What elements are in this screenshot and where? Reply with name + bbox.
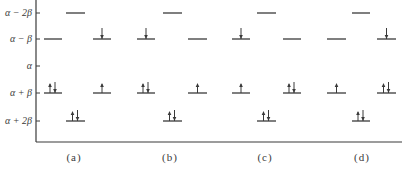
y-axis-label: α xyxy=(27,61,32,71)
arrow-head-up-icon xyxy=(287,83,291,87)
y-axis-label: α − β xyxy=(10,34,32,44)
diagram-canvas xyxy=(0,0,402,170)
arrow-head-up-icon xyxy=(168,111,172,115)
configuration-label: (a) xyxy=(59,151,89,163)
arrow-head-up-icon xyxy=(335,83,339,87)
arrow-head-up-icon xyxy=(100,83,104,87)
arrow-head-up-icon xyxy=(48,83,52,87)
arrow-head-up-icon xyxy=(262,111,266,115)
arrow-head-up-icon xyxy=(382,83,386,87)
arrow-head-up-icon xyxy=(71,111,75,115)
y-axis-label: α − 2β xyxy=(5,8,32,18)
configuration-label: (d) xyxy=(347,151,377,163)
arrow-head-up-icon xyxy=(196,83,200,87)
arrow-head-up-icon xyxy=(141,83,145,87)
configuration-label: (c) xyxy=(250,151,280,163)
y-axis-label: α + 2β xyxy=(5,116,32,126)
y-axis-label: α + β xyxy=(10,88,32,98)
arrow-head-up-icon xyxy=(356,111,360,115)
configuration-label: (b) xyxy=(155,151,185,163)
arrow-head-up-icon xyxy=(239,83,243,87)
